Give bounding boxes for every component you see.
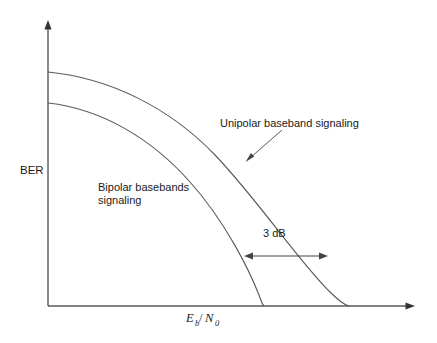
unipolar-signaling-label: Unipolar baseband signaling <box>220 117 359 129</box>
bipolar-signaling-label-line2: signaling <box>98 194 141 206</box>
y-axis-arrowhead-icon <box>44 20 51 30</box>
gap-3db-label: 3 dB <box>263 227 286 239</box>
x-axis-label-subscript-zero: 0 <box>215 318 220 328</box>
curve-unipolar-baseband <box>48 72 349 306</box>
curve-bipolar-baseband <box>48 103 264 306</box>
x-axis-label-separator: / <box>199 311 203 325</box>
figure-container: Unipolar baseband signaling Bipolar base… <box>0 0 437 343</box>
x-axis-arrowhead-icon <box>406 302 416 309</box>
y-axis-label: BER <box>20 164 44 176</box>
x-axis-label: E b / N 0 <box>185 311 220 328</box>
bipolar-signaling-label-line1: Bipolar basebands <box>98 181 190 193</box>
gap-arrowhead-right-icon <box>319 253 328 260</box>
unipolar-leader-line <box>250 130 282 158</box>
x-axis-label-symbol-e: E <box>185 311 194 325</box>
x-axis-label-symbol-n: N <box>204 311 214 325</box>
gap-arrowhead-left-icon <box>244 253 253 260</box>
curves-group <box>48 72 349 306</box>
unipolar-arrowhead-icon <box>246 153 255 162</box>
ber-vs-ebno-chart: Unipolar baseband signaling Bipolar base… <box>0 0 437 343</box>
unipolar-leader-group <box>246 130 283 162</box>
gap-measure-group <box>244 253 328 260</box>
axes-group <box>44 20 415 310</box>
